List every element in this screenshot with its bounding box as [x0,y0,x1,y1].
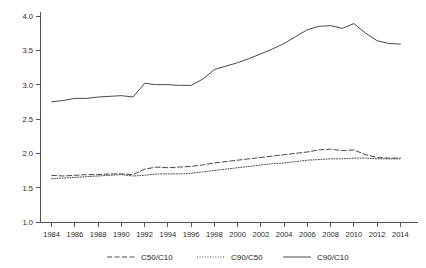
x-tick-label: 1998 [206,230,223,239]
chart-canvas: 1.01.52.02.53.03.54.0 198419861988199019… [0,0,426,268]
legend-label-c50-c10: C50/C10 [141,253,173,262]
y-tick-label: 1.0 [22,218,33,227]
x-tick-label: 2000 [229,230,246,239]
x-tick-label: 2002 [252,230,269,239]
series-lines [52,24,401,179]
x-tick-label: 1988 [90,230,107,239]
y-tick-label: 2.5 [22,115,33,124]
x-tick-label: 1986 [66,230,83,239]
x-axis: 1984198619881990199219941996199820002002… [40,222,418,239]
x-tick-label: 2006 [299,230,316,239]
series-line-c90-c10 [52,24,401,102]
series-line-c50-c10 [52,149,401,176]
y-tick-label: 3.0 [22,81,33,90]
x-tick-label: 1984 [43,230,60,239]
x-tick-label: 1990 [113,230,130,239]
line-chart-figure: 1.01.52.02.53.03.54.0 198419861988199019… [0,0,426,268]
legend-label-c90-c50: C90/C50 [231,253,263,262]
y-tick-label: 1.5 [22,184,33,193]
y-axis: 1.01.52.02.53.03.54.0 [22,12,40,227]
y-tick-label: 4.0 [22,12,33,21]
y-tick-label: 2.0 [22,149,33,158]
x-tick-label: 2014 [392,230,409,239]
legend-label-c90-c10: C90/C10 [317,253,349,262]
x-tick-label: 2010 [345,230,362,239]
x-tick-label: 2004 [276,230,293,239]
x-tick-label: 1994 [159,230,176,239]
x-tick-label: 2008 [322,230,339,239]
x-tick-label: 2012 [369,230,386,239]
x-tick-label: 1996 [183,230,200,239]
x-tick-label: 1992 [136,230,153,239]
chart-legend: C50/C10C90/C50C90/C10 [107,253,349,262]
y-tick-label: 3.5 [22,46,33,55]
